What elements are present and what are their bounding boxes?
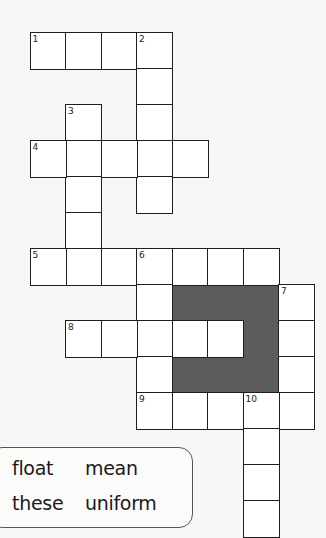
- crossword-cell[interactable]: [278, 392, 315, 430]
- crossword-cell[interactable]: [65, 140, 102, 178]
- crossword-cell[interactable]: [243, 500, 280, 538]
- crossword-cell[interactable]: [136, 284, 173, 322]
- word-bank-item: float: [12, 457, 53, 479]
- crossword-cell[interactable]: 3: [65, 104, 102, 142]
- clue-number: 4: [33, 142, 39, 152]
- crossword-cell[interactable]: 10: [243, 392, 280, 430]
- crossword-cell[interactable]: 8: [65, 320, 102, 358]
- crossword-cell[interactable]: [207, 320, 244, 358]
- crossword-cell[interactable]: [172, 392, 209, 430]
- crossword-cell[interactable]: [65, 212, 102, 250]
- clue-number: 8: [68, 322, 74, 332]
- crossword-cell[interactable]: [101, 140, 138, 178]
- crossword-cell[interactable]: [101, 248, 138, 286]
- crossword-cell[interactable]: [101, 32, 138, 70]
- crossword-cell[interactable]: [101, 320, 138, 358]
- crossword-cell[interactable]: [136, 356, 173, 394]
- clue-number: 2: [139, 34, 145, 44]
- crossword-cell[interactable]: [65, 248, 102, 286]
- crossword-cell[interactable]: [172, 140, 209, 178]
- crossword-cell[interactable]: [136, 176, 173, 214]
- crossword-cell[interactable]: [243, 428, 280, 466]
- word-bank-item: mean: [85, 457, 138, 479]
- crossword-cell[interactable]: [136, 68, 173, 106]
- crossword-cell[interactable]: [278, 356, 315, 394]
- clue-number: 1: [33, 34, 39, 44]
- crossword-cell[interactable]: 1: [30, 32, 67, 70]
- clue-number: 3: [68, 106, 74, 116]
- word-bank: float mean these uniform: [0, 447, 193, 528]
- crossword-cell[interactable]: [207, 392, 244, 430]
- crossword-cell[interactable]: [172, 248, 209, 286]
- crossword-cell[interactable]: [136, 104, 173, 142]
- word-bank-item: uniform: [85, 492, 157, 514]
- crossword-cell[interactable]: [207, 248, 244, 286]
- crossword-cell[interactable]: [136, 140, 173, 178]
- clue-number: 6: [139, 250, 145, 260]
- crossword-cell[interactable]: 7: [278, 284, 315, 322]
- clue-number: 5: [33, 250, 39, 260]
- clue-number: 9: [139, 394, 145, 404]
- crossword-cell[interactable]: [136, 320, 173, 358]
- clue-number: 7: [281, 286, 287, 296]
- clue-number: 10: [246, 394, 257, 404]
- crossword-cell[interactable]: 5: [30, 248, 67, 286]
- crossword-cell[interactable]: [278, 320, 315, 358]
- crossword-cell[interactable]: [65, 176, 102, 214]
- crossword-cell[interactable]: 2: [136, 32, 173, 70]
- crossword-cell[interactable]: [65, 32, 102, 70]
- crossword-cell[interactable]: [172, 320, 209, 358]
- crossword-cell[interactable]: [243, 248, 280, 286]
- crossword-cell[interactable]: 4: [30, 140, 67, 178]
- crossword-cell[interactable]: 6: [136, 248, 173, 286]
- word-bank-item: these: [12, 492, 63, 514]
- crossword-cell[interactable]: 9: [136, 392, 173, 430]
- crossword-cell[interactable]: [243, 464, 280, 502]
